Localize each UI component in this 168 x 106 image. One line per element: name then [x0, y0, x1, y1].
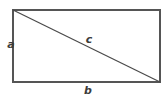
label-diagonal-c: c: [83, 34, 95, 45]
geometry-diagram: a b c: [0, 0, 168, 106]
label-side-b: b: [82, 85, 94, 96]
label-side-a: a: [6, 39, 16, 50]
diagonal-line: [13, 10, 160, 82]
